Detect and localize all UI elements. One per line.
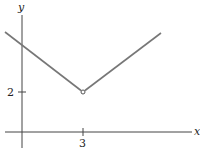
left-branch [5,32,81,91]
y-tick-label-2: 2 [7,86,14,99]
open-circle-hole [81,90,85,94]
right-branch [85,33,161,91]
x-tick-label-3: 3 [79,137,86,149]
y-axis-label: y [17,1,25,14]
x-axis-label: x [194,125,200,138]
chart: y x 3 2 [0,0,200,149]
